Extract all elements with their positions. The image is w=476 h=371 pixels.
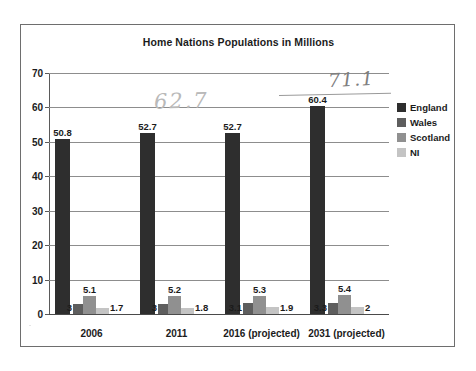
bar-value-label: 60.4 [308,94,327,105]
y-tick-mark [45,280,49,281]
y-tick-mark [45,142,49,143]
bar-wales-3[interactable]: 3.3 [328,303,338,314]
legend-label: Scotland [410,132,450,143]
bar-value-label: 3.3 [314,302,327,313]
bar-value-label: 5.2 [168,284,181,295]
y-tick-label: 50 [32,136,43,147]
bar-scotland-2[interactable]: 5.3 [253,296,266,314]
x-axis-category-label: 2011 [166,328,188,339]
y-axis-line [49,73,50,314]
paper-speckle [29,325,31,326]
x-axis-category-label: 2006 [80,328,102,339]
bar-value-label: 5.3 [253,284,266,295]
bar-ni-3[interactable]: 2 [351,307,364,314]
legend-item-england[interactable]: England [397,101,450,113]
y-tick-mark [45,245,49,246]
bar-ni-1[interactable]: 1.8 [181,308,194,314]
bar-value-label: 2 [365,302,370,313]
y-tick-mark [45,176,49,177]
bar-england-1[interactable]: 52.7 [140,133,155,314]
legend-label: England [410,102,447,113]
bar-value-label: 1.9 [280,302,293,313]
y-tick-label: 70 [32,68,43,79]
legend-item-scotland[interactable]: Scotland [397,131,450,143]
bar-group-2006: 50.835.11.72006 [55,73,134,314]
bar-england-0[interactable]: 50.8 [55,139,70,314]
bar-group-2011: 52.735.21.82011 [140,73,219,314]
y-tick-label: 60 [32,102,43,113]
bar-scotland-1[interactable]: 5.2 [168,296,181,314]
bar-value-label: 1.7 [110,302,123,313]
bar-ni-2[interactable]: 1.9 [266,307,279,314]
bar-ni-0[interactable]: 1.7 [96,308,109,314]
paper-speckle [373,331,376,332]
bar-england-2[interactable]: 52.7 [225,133,240,314]
bar-value-label: 3 [152,302,157,313]
legend-label: Wales [410,117,437,128]
bar-value-label: 52.7 [138,121,157,132]
bar-value-label: 50.8 [53,127,72,138]
y-tick-label: 40 [32,171,43,182]
legend-label: NI [410,147,420,158]
bar-scotland-3[interactable]: 5.4 [338,295,351,314]
bar-wales-1[interactable]: 3 [158,304,168,314]
bar-england-3[interactable]: 60.4 [310,106,325,314]
bar-value-label: 3.1 [229,302,242,313]
legend-item-wales[interactable]: Wales [397,116,450,128]
bar-group-2016-projected-: 52.73.15.31.92016 (projected) [225,73,304,314]
bar-value-label: 1.8 [195,302,208,313]
gridline-0 [49,314,389,315]
legend-swatch-icon [397,118,406,127]
bar-wales-0[interactable]: 3 [73,304,83,314]
bar-wales-2[interactable]: 3.1 [243,303,253,314]
bar-value-label: 5.4 [338,283,351,294]
y-tick-label: 10 [32,274,43,285]
legend-swatch-icon [397,148,406,157]
bar-value-label: 52.7 [223,121,242,132]
y-tick-mark [45,73,49,74]
y-tick-label: 30 [32,205,43,216]
y-tick-mark [45,314,49,315]
y-tick-label: 20 [32,240,43,251]
x-axis-category-label: 2016 (projected) [223,328,300,339]
y-tick-mark [45,211,49,212]
bar-value-label: 3 [67,302,72,313]
bar-value-label: 5.1 [83,284,96,295]
y-tick-mark [45,107,49,108]
x-axis-category-label: 2031 (projected) [308,328,385,339]
plot-area: 010203040506070 50.835.11.7200652.735.21… [49,73,389,314]
bar-scotland-0[interactable]: 5.1 [83,296,96,314]
chart-frame: Home Nations Populations in Millions 010… [20,24,455,347]
legend-swatch-icon [397,133,406,142]
bar-group-2031-projected-: 60.43.35.422031 (projected) [310,73,389,314]
legend-item-ni[interactable]: NI [397,146,450,158]
chart-legend: EnglandWalesScotlandNI [397,101,450,161]
legend-swatch-icon [397,103,406,112]
chart-title: Home Nations Populations in Millions [21,36,456,48]
y-tick-label: 0 [37,309,43,320]
